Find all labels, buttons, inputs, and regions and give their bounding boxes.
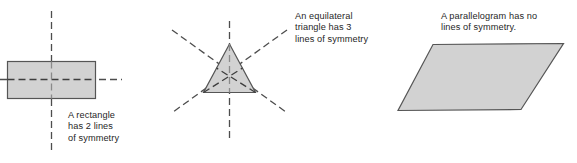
rectangle-caption-line-2: has 2 lines <box>68 121 119 132</box>
parallelogram-caption-line-2: lines of symmetry. <box>441 22 537 33</box>
rectangle-caption-line-3: of symmetry <box>68 133 119 144</box>
symmetry-figure: A rectangle has 2 lines of symmetry An e… <box>0 0 577 163</box>
parallelogram-caption-line-1: A parallelogram has no <box>441 11 537 22</box>
parallelogram-shape <box>398 44 564 111</box>
rectangle-caption-line-1: A rectangle <box>68 110 119 121</box>
triangle-caption: An equilateral triangle has 3 lines of s… <box>295 11 368 45</box>
triangle-caption-line-1: An equilateral <box>295 11 368 22</box>
triangle-group <box>172 21 287 138</box>
triangle-caption-line-3: lines of symmetry <box>295 34 368 45</box>
rectangle-caption: A rectangle has 2 lines of symmetry <box>68 110 119 144</box>
parallelogram-group <box>398 44 564 111</box>
parallelogram-caption: A parallelogram has no lines of symmetry… <box>441 11 537 34</box>
triangle-caption-line-2: triangle has 3 <box>295 22 368 33</box>
